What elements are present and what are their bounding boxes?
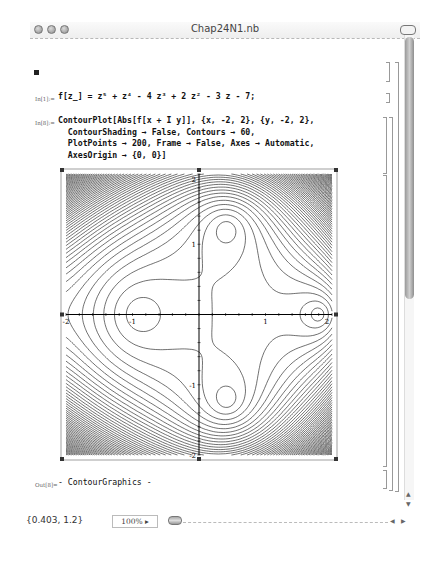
axis-ticks <box>66 174 332 455</box>
group-bracket[interactable] <box>389 117 393 491</box>
group-bracket[interactable] <box>395 62 399 492</box>
resize-handle[interactable] <box>60 168 64 172</box>
y-tick-label: -2 <box>189 452 196 460</box>
cell-bracket[interactable] <box>383 175 387 467</box>
output-label-8: Out[8]= <box>35 482 58 488</box>
y-tick-label: -1 <box>189 382 196 390</box>
input-label-8: In[8]:= <box>35 120 55 126</box>
input-cell-1[interactable]: f[z_] = z⁵ + z⁴ - 4 z³ + 2 z² - 3 z - 7; <box>58 91 255 103</box>
output-cell-8: - ContourGraphics - <box>58 477 152 489</box>
cell-bracket[interactable] <box>386 93 390 103</box>
toolbar-toggle-button[interactable] <box>400 25 416 35</box>
resize-handle[interactable] <box>60 313 64 317</box>
resize-handle[interactable] <box>334 313 338 317</box>
x-tick-label: 1 <box>263 318 267 326</box>
window-title: Chap24N1.nb <box>30 23 420 34</box>
scroll-down-arrow-icon[interactable]: ▼ <box>406 500 411 507</box>
y-tick-label: 1 <box>192 241 196 249</box>
resize-handle[interactable] <box>197 457 201 461</box>
cell-bracket[interactable] <box>386 62 390 82</box>
horizontal-scroll-thumb[interactable] <box>168 516 182 525</box>
cell-bracket[interactable] <box>383 470 387 489</box>
vertical-scrollbar[interactable]: ▲ ▼ <box>404 35 414 500</box>
input-label-1: In[1]:= <box>35 96 55 102</box>
contour-plot[interactable]: -2-11221-1-2 <box>60 168 338 461</box>
scroll-right-arrow-icon[interactable]: ▶ <box>401 517 406 524</box>
x-tick-label: -1 <box>129 318 136 326</box>
scroll-up-arrow-icon[interactable]: ▲ <box>406 490 411 497</box>
resize-handle[interactable] <box>334 168 338 172</box>
x-tick-label: 2 <box>325 318 329 326</box>
zoom-level: 100% <box>121 517 142 526</box>
resize-handle[interactable] <box>60 457 64 461</box>
input-cell-8[interactable]: ContourPlot[Abs[f[x + I y]], {x, -2, 2},… <box>58 115 314 161</box>
horizontal-scrollbar-track[interactable] <box>183 522 388 523</box>
zoom-menu[interactable]: 100% ▸ <box>112 515 158 528</box>
resize-handle[interactable] <box>197 168 201 172</box>
scroll-left-arrow-icon[interactable]: ◀ <box>390 517 395 524</box>
cell-insertion-marker <box>34 70 39 75</box>
cell-bracket[interactable] <box>383 117 387 174</box>
y-tick-label: 2 <box>192 176 196 184</box>
x-tick-label: -2 <box>63 318 70 326</box>
cursor-coordinates: {0.403, 1.2} <box>26 515 83 525</box>
vertical-scroll-thumb[interactable] <box>405 37 414 299</box>
title-bar[interactable]: Chap24N1.nb <box>30 22 420 39</box>
status-bar: {0.403, 1.2} 100% ▸ ◀ ▶ <box>20 515 420 529</box>
resize-handle[interactable] <box>334 457 338 461</box>
